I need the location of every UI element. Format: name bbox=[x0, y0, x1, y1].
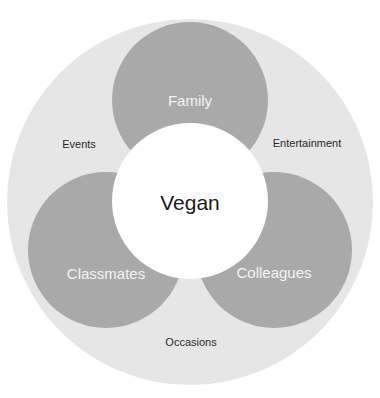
family-label: Family bbox=[168, 92, 212, 109]
colleagues-label: Colleagues bbox=[236, 264, 311, 281]
center-label: Vegan bbox=[160, 191, 220, 215]
events-label: Events bbox=[62, 138, 96, 150]
entertainment-label: Entertainment bbox=[273, 137, 341, 149]
classmates-label: Classmates bbox=[67, 265, 145, 282]
occasions-label: Occasions bbox=[165, 336, 216, 348]
